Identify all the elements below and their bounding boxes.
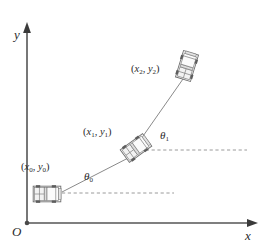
coord-y-subscript: 2 [153,68,157,76]
coord-y-symbol: y [148,63,153,74]
coordinate-label-pose-2: (x2, y2) [131,63,160,74]
coord-x-subscript: 1 [91,131,95,139]
coord-y-symbol: y [38,161,43,172]
path-segment-0-1 [62,155,134,192]
coord-y-symbol: y [100,126,105,137]
coord-x-subscript: 0 [29,166,33,174]
coordinate-label-pose-0: (x0, y0) [21,161,50,172]
theta-subscript: 1 [165,135,169,143]
coord-y-subscript: 0 [43,166,47,174]
y-axis-label: y [14,27,20,43]
x-axis-label: x [245,228,251,244]
coordinate-label-pose-1: (x1, y1) [83,126,112,137]
theta-subscript: 0 [89,176,93,184]
car-top-view-icon-pose-2 [175,50,200,82]
vehicle-trajectory-figure: y O x (x0, y0) (x1, y1) (x2, y2) θ0 θ1 [0,0,275,247]
vehicle-group [33,50,199,203]
paren-close: ) [46,161,50,172]
arrow-up-icon [23,22,31,33]
origin-dot-icon [25,221,30,226]
coord-x-subscript: 2 [139,68,143,76]
paren-close: ) [108,126,112,137]
paren-close: ) [156,63,160,74]
car-top-view-icon-pose-0 [33,185,61,203]
figure-canvas [0,0,275,247]
arrow-right-icon [247,219,258,227]
car-top-view-icon-pose-1 [120,133,153,164]
angle-label-theta0: θ0 [84,170,93,182]
origin-label: O [12,224,21,240]
coord-y-subscript: 1 [105,131,109,139]
angle-label-theta1: θ1 [160,129,169,141]
